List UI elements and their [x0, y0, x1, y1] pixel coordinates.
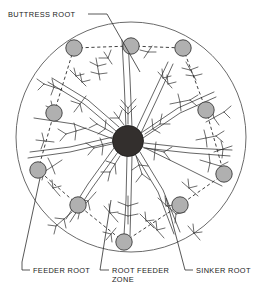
lateral-root-w	[28, 142, 113, 158]
label-root-feeder-zone-leader	[100, 200, 111, 270]
sinker-link-sinker-4-sinker-1	[54, 48, 74, 113]
lateral-root-e	[144, 143, 232, 150]
label-buttress-root: BUTTRESS ROOT	[8, 10, 76, 19]
label-feeder-root-leader	[22, 178, 40, 270]
lateral-root-s	[124, 156, 127, 236]
label-leader-lines	[22, 14, 193, 270]
sinker-7	[216, 166, 232, 182]
root-system-diagram: BUTTRESS ROOT FEEDER ROOT ROOT FEEDER ZO…	[0, 0, 262, 289]
sinker-3	[175, 40, 191, 56]
label-root-feeder-zone-line2: ZONE	[112, 275, 134, 284]
label-sinker-root: SINKER ROOT	[196, 266, 251, 275]
lateral-root-wnw	[34, 118, 113, 139]
sinker-9	[172, 197, 188, 213]
sinker-1	[66, 40, 82, 56]
sinker-8	[70, 197, 86, 213]
sinker-5	[198, 102, 214, 118]
sinker-10	[116, 234, 132, 250]
trunk-cross-section	[113, 126, 144, 157]
sinker-6	[30, 162, 46, 178]
sinker-link-sinker-10-sinker-8	[78, 205, 124, 242]
lateral-root-s-edge	[130, 156, 132, 236]
lateral-root-n	[122, 40, 126, 128]
diagram-canvas: BUTTRESS ROOT FEEDER ROOT ROOT FEEDER ZO…	[0, 0, 262, 289]
label-root-feeder-zone: ROOT FEEDER	[112, 266, 169, 275]
label-feeder-root: FEEDER ROOT	[33, 266, 90, 275]
sinker-4	[46, 105, 62, 121]
